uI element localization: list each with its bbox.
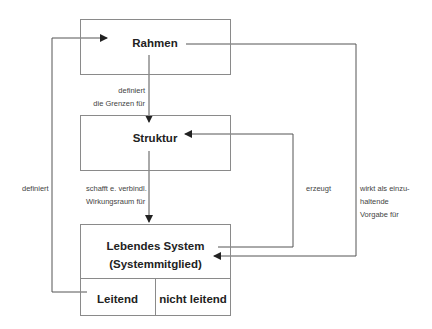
- nicht-leitend-cell: nicht leitend: [155, 293, 231, 305]
- systemmitglied-title: (Systemmitglied): [80, 258, 231, 270]
- label-schafft-wirkungsraum: schafft e. verbindl. Wirkungsraum für: [86, 182, 147, 208]
- struktur-title: Struktur: [120, 132, 190, 144]
- lebendes-system-title: Lebendes System: [80, 240, 231, 252]
- label-definiert-grenzen: definiert die Grenzen für: [80, 84, 145, 110]
- label-erzeugt: erzeugt: [306, 182, 331, 195]
- leitend-cell: Leitend: [80, 293, 155, 305]
- label-wirkt-als-vorgabe: wirkt als einzu- haltende Vorgabe für: [360, 182, 410, 221]
- label-definiert-left: definiert: [22, 182, 49, 195]
- rahmen-title: Rahmen: [120, 37, 190, 49]
